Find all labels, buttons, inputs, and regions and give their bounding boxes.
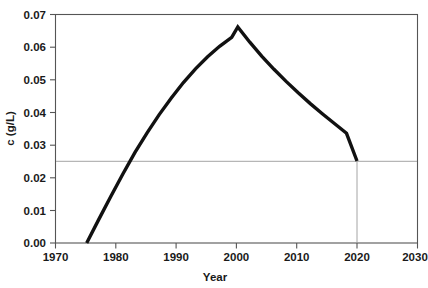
y-tick-label: 0.03 <box>24 139 46 151</box>
x-tick-label: 1990 <box>163 251 189 263</box>
y-tick-label: 0.06 <box>24 41 46 53</box>
x-tick-label: 2020 <box>344 251 370 263</box>
x-tick-label: 2010 <box>284 251 310 263</box>
x-tick-label: 1980 <box>103 251 129 263</box>
y-tick-label: 0.00 <box>24 237 46 249</box>
x-tick-label: 2000 <box>224 251 250 263</box>
y-tick-label: 0.02 <box>24 172 46 184</box>
y-tick-label: 0.01 <box>24 205 47 217</box>
y-tick-label: 0.05 <box>24 74 47 86</box>
concentration-vs-year-line-chart: 0.07 0.06 0.05 0.04 0.03 0.02 0.01 0.00 … <box>0 0 428 288</box>
y-axis-title: c (g/L) <box>4 111 16 146</box>
chart-background <box>0 0 428 288</box>
x-axis-title: Year <box>203 271 228 283</box>
x-tick-label: 2030 <box>402 251 428 263</box>
y-tick-label: 0.07 <box>24 9 46 21</box>
y-tick-label: 0.04 <box>24 107 47 119</box>
chart-screenshot: 0.07 0.06 0.05 0.04 0.03 0.02 0.01 0.00 … <box>0 0 428 288</box>
x-tick-label: 1970 <box>43 251 69 263</box>
